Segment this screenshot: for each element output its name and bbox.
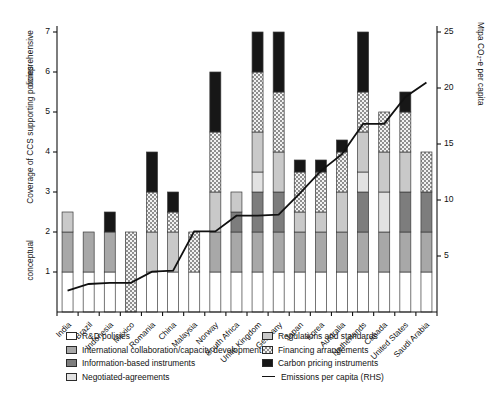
bar-segment-rd [421, 272, 432, 312]
bar-segment-carbon [273, 32, 284, 92]
bar-segment-reg [315, 212, 326, 232]
legend-label: Carbon pricing instruments [278, 358, 378, 368]
y-tick-label-left: 6 [34, 66, 50, 76]
bar-segment-fin [252, 72, 263, 132]
ccs-policy-chart-figure: comprehensive Coverage of CCS supporting… [0, 0, 493, 398]
bar-segment-fin [168, 212, 179, 232]
bar-segment-rd [147, 272, 158, 312]
bar-segment-reg [147, 232, 158, 272]
legend-item[interactable]: Negotiated-agreements [66, 372, 170, 382]
bar-stack [147, 152, 158, 312]
legend-item[interactable]: Emissions per capita (RHS) [262, 372, 384, 382]
bar-stack [168, 192, 179, 312]
bar-segment-rd [83, 272, 94, 312]
bar-segment-carbon [252, 32, 263, 72]
bar-segment-rd [273, 272, 284, 312]
bar-stack [273, 32, 284, 312]
swatch-black-icon [262, 359, 273, 367]
bar-segment-rd [210, 272, 221, 312]
swatch-lightgrey-icon [66, 373, 77, 381]
bar-stack [337, 140, 348, 312]
legend-label: Negotiated-agreements [82, 372, 170, 382]
legend-label: Emissions per capita (RHS) [281, 372, 384, 382]
bar-stack [294, 160, 305, 312]
bar-stack [62, 212, 73, 312]
swatch-grey-icon [66, 346, 77, 354]
bar-stack [83, 232, 94, 312]
bar-segment-rd [62, 272, 73, 312]
bar-segment-rd [294, 272, 305, 312]
bar-stack [252, 32, 263, 312]
legend-item[interactable]: R&D policies [66, 331, 130, 341]
bar-segment-info [358, 192, 369, 232]
bar-segment-info [421, 192, 432, 232]
y-tick-label-left: 1 [34, 266, 50, 276]
bar-segment-fin [358, 92, 369, 132]
bar-segment-reg [210, 192, 221, 232]
bar-segment-nego [358, 172, 369, 192]
legend-item[interactable]: Carbon pricing instruments [262, 358, 378, 368]
bar-segment-rd [315, 272, 326, 312]
bar-segment-info [273, 192, 284, 232]
bar-stack [125, 232, 136, 312]
legend-item[interactable]: Financing arrangements [262, 345, 368, 355]
bar-segment-info [252, 192, 263, 232]
bar-segment-intl [379, 232, 390, 272]
bar-segment-intl [421, 232, 432, 272]
bar-segment-rd [189, 272, 200, 312]
bar-segment-carbon [294, 160, 305, 172]
bar-segment-rd [379, 272, 390, 312]
bar-stack [379, 112, 390, 312]
bar-segment-info [400, 192, 411, 232]
bar-segment-carbon [104, 212, 115, 232]
swatch-checker-icon [262, 346, 273, 354]
bar-segment-intl [400, 232, 411, 272]
legend-item[interactable]: International collaboration/capacity dev… [66, 345, 261, 355]
legend-label: International collaboration/capacity dev… [82, 345, 261, 355]
bar-segment-fin [315, 172, 326, 212]
y-tick-label-left: 7 [34, 26, 50, 36]
bar-segment-nego [252, 172, 263, 192]
bar-segment-intl [337, 232, 348, 272]
bars-layer [62, 32, 432, 312]
legend-item[interactable]: Regulations and standards [262, 331, 378, 341]
bar-segment-reg [358, 132, 369, 172]
legend-label: R&D policies [82, 331, 130, 341]
bar-segment-carbon [358, 32, 369, 92]
bar-segment-fin [147, 192, 158, 232]
bar-segment-rd [168, 272, 179, 312]
bar-segment-intl [104, 232, 115, 272]
bar-segment-reg [294, 212, 305, 232]
bar-segment-intl [315, 232, 326, 272]
y-tick-label-right: 15 [444, 138, 454, 148]
bar-segment-rd [400, 272, 411, 312]
bar-segment-reg [379, 152, 390, 192]
bar-segment-intl [273, 232, 284, 272]
y-tick-label-right: 25 [444, 26, 454, 36]
swatch-darkgrey-icon [66, 359, 77, 367]
bar-segment-fin [125, 232, 136, 312]
bar-stack [421, 152, 432, 312]
bar-segment-reg [400, 152, 411, 192]
emissions-line-layer [68, 82, 427, 290]
y-tick-label-left: 5 [34, 106, 50, 116]
bar-segment-intl [252, 232, 263, 272]
y-tick-label-right: 5 [444, 250, 449, 260]
legend-label: Information-based instruments [82, 358, 195, 368]
bar-segment-carbon [210, 72, 221, 132]
bar-segment-fin [273, 92, 284, 152]
bar-segment-rd [358, 272, 369, 312]
legend-item[interactable]: Information-based instruments [66, 358, 195, 368]
y-tick-label-left: 3 [34, 186, 50, 196]
bar-segment-nego [379, 192, 390, 232]
bar-stack [358, 32, 369, 312]
bar-segment-fin [421, 152, 432, 192]
y-tick-label-left: 4 [34, 146, 50, 156]
bar-stack [315, 160, 326, 312]
bar-segment-intl [358, 232, 369, 272]
bar-segment-rd [337, 272, 348, 312]
bar-segment-rd [231, 272, 242, 312]
y-tick-label-right: 20 [444, 82, 454, 92]
bar-segment-rd [104, 272, 115, 312]
legend-label: Financing arrangements [278, 345, 368, 355]
